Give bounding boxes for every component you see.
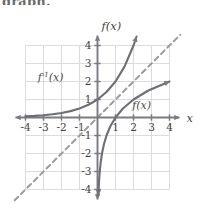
clipped-header-text: graph. xyxy=(2,0,51,5)
x-axis-label: x xyxy=(187,111,194,125)
y-axis-label: f(x) xyxy=(101,19,122,33)
y-tick-label: -1 xyxy=(81,129,91,141)
function-inverse-graph-figure: graph. -4-3-2-11234-4-3-2-11234 f(x)x f-… xyxy=(0,0,208,209)
x-tick-label: 3 xyxy=(148,121,155,133)
x-tick-label: -4 xyxy=(20,121,31,133)
function-label: f-1(x) xyxy=(37,71,64,84)
y-tick-label: -4 xyxy=(81,183,92,195)
y-tick-label: 2 xyxy=(85,75,92,87)
y-tick-label: 3 xyxy=(85,57,92,69)
x-tick-label: 4 xyxy=(166,121,173,133)
graph-canvas: -4-3-2-11234-4-3-2-11234 f(x)x f-1(x)f(x… xyxy=(0,0,208,209)
x-tick-label: 2 xyxy=(130,121,137,133)
x-tick-label: -2 xyxy=(56,121,66,133)
function-label: f(x) xyxy=(131,99,151,112)
y-tick-label: -3 xyxy=(81,165,91,177)
y-tick-label: 4 xyxy=(85,39,92,51)
x-tick-label: -3 xyxy=(38,121,48,133)
y-tick-label: -2 xyxy=(81,147,91,159)
